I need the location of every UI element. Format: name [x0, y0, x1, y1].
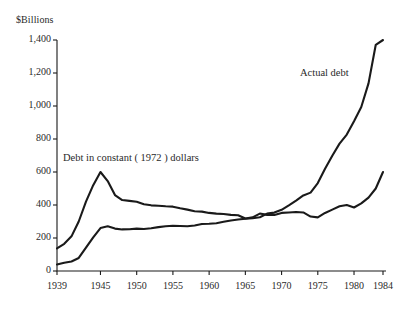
plot-canvas — [0, 0, 407, 314]
series-line-constant-dollars — [57, 172, 383, 248]
debt-line-chart: $Billions 02004006008001,0001,2001,400 1… — [0, 0, 407, 314]
series-annotation-constant-dollars: Debt in constant ( 1972 ) dollars — [63, 152, 199, 163]
series-annotation-actual-debt: Actual debt — [300, 67, 349, 78]
